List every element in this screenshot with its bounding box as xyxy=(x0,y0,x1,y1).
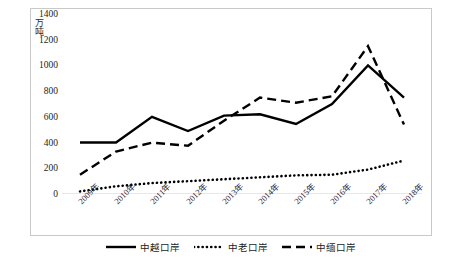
dotted-line-marker xyxy=(194,243,224,251)
legend-item[interactable]: 中老口岸 xyxy=(194,240,268,254)
y-axis-tick-label: 800 xyxy=(24,86,58,96)
legend-item[interactable]: 中缅口岸 xyxy=(282,240,356,254)
solid-line-marker xyxy=(106,243,136,251)
y-axis-tick-label: 1400 xyxy=(24,9,58,19)
series-line-中缅口岸 xyxy=(80,46,404,175)
chart-legend: 中越口岸中老口岸中缅口岸 xyxy=(30,240,432,254)
y-axis-tick-label: 200 xyxy=(24,163,58,173)
y-axis-tick-label: 600 xyxy=(24,112,58,122)
series-line-中越口岸 xyxy=(80,65,404,142)
series-canvas xyxy=(62,14,422,194)
dashed-line-marker xyxy=(282,243,312,251)
line-chart: 万吨 1400120010008006004002000 2009年2010年2… xyxy=(0,0,457,278)
y-axis-tick-label: 1000 xyxy=(24,60,58,70)
y-axis-tick-labels: 1400120010008006004002000 xyxy=(20,14,58,194)
x-axis-tick-labels: 2009年2010年2011年2012年2013年2014年2015年2016年… xyxy=(62,196,422,236)
legend-label: 中越口岸 xyxy=(140,240,180,254)
y-axis-tick-label: 0 xyxy=(24,189,58,199)
plot-area xyxy=(62,14,422,194)
y-axis-tick-label: 1200 xyxy=(24,35,58,45)
y-axis-tick-label: 400 xyxy=(24,138,58,148)
legend-label: 中缅口岸 xyxy=(316,240,356,254)
legend-item[interactable]: 中越口岸 xyxy=(106,240,180,254)
legend-label: 中老口岸 xyxy=(228,240,268,254)
